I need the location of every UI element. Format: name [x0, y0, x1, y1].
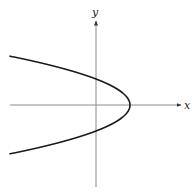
- parabola-diagram: x y: [0, 0, 192, 196]
- x-axis-label: x: [184, 99, 191, 112]
- y-axis-label: y: [91, 6, 99, 19]
